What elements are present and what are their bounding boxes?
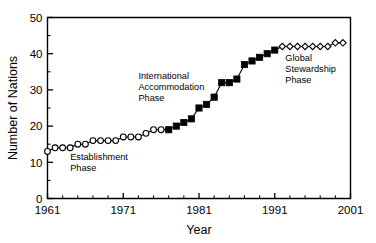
phase-annotation-line: Phase (70, 163, 96, 173)
data-point-open-circle (67, 145, 73, 151)
data-point-filled-square (196, 105, 202, 111)
data-point-open-circle (113, 138, 119, 144)
data-point-open-diamond (287, 43, 293, 49)
data-point-open-circle (143, 130, 149, 136)
data-point-open-circle (82, 141, 88, 147)
data-point-filled-square (188, 116, 194, 122)
data-point-open-circle (151, 127, 157, 133)
data-point-open-circle (120, 134, 126, 140)
data-point-open-diamond (332, 40, 338, 46)
data-point-open-diamond (294, 43, 300, 49)
data-point-open-diamond (325, 43, 331, 49)
x-tick-label: 2001 (338, 204, 364, 216)
data-point-filled-square (257, 54, 263, 60)
phase-annotation-establishment: EstablishmentPhase (70, 152, 128, 173)
y-tick-label: 20 (30, 120, 43, 132)
data-point-open-diamond (279, 43, 285, 49)
x-tick-label: 1971 (110, 204, 136, 216)
phase-annotation-line: Stewardship (285, 64, 336, 74)
phase-annotation-line: Phase (138, 93, 164, 103)
data-point-open-circle (158, 127, 164, 133)
phase-annotation-global-stewardship: GlobalStewardshipPhase (285, 53, 336, 85)
data-point-filled-square (173, 123, 179, 129)
data-point-filled-square (181, 119, 187, 125)
x-axis-title: Year (186, 223, 211, 237)
data-point-open-diamond (302, 43, 308, 49)
data-point-open-circle (60, 145, 66, 151)
y-tick-label: 30 (30, 84, 43, 96)
phase-annotation-line: Accommodation (138, 82, 204, 92)
chart-canvas: 0102030405019611971198119912001YearNumbe… (0, 0, 376, 243)
phase-annotation-line: Global (285, 53, 312, 63)
data-point-filled-square (166, 127, 172, 133)
data-point-filled-square (234, 76, 240, 82)
data-point-open-circle (75, 141, 81, 147)
data-point-open-circle (90, 138, 96, 144)
data-point-filled-square (272, 47, 278, 53)
data-point-open-circle (136, 134, 142, 140)
phase-annotation-line: Establishment (70, 152, 128, 162)
data-point-filled-square (249, 58, 255, 64)
data-point-open-circle (98, 138, 104, 144)
data-point-filled-square (264, 51, 270, 57)
data-point-filled-square (219, 80, 225, 86)
phase-annotation-line: Phase (285, 75, 311, 85)
data-point-open-circle (105, 138, 111, 144)
phase-annotation-line: International (138, 71, 189, 81)
chart-figure: 0102030405019611971198119912001YearNumbe… (0, 0, 376, 243)
x-tick-label: 1991 (262, 204, 288, 216)
data-point-open-circle (52, 145, 58, 151)
data-point-filled-square (211, 94, 217, 100)
y-tick-label: 10 (30, 157, 43, 169)
data-point-open-circle (45, 149, 51, 155)
x-tick-label: 1961 (35, 204, 61, 216)
data-point-filled-square (226, 80, 232, 86)
y-tick-label: 40 (30, 48, 43, 60)
y-axis-title: Number of Nations (6, 56, 20, 160)
data-point-open-diamond (309, 43, 315, 49)
data-point-open-diamond (317, 43, 323, 49)
data-point-filled-square (203, 101, 209, 107)
data-point-open-circle (128, 134, 134, 140)
data-point-open-diamond (340, 40, 346, 46)
x-tick-label: 1981 (186, 204, 212, 216)
series-markers-2 (279, 40, 346, 50)
data-point-filled-square (241, 61, 247, 67)
phase-annotation-international-accommodation: InternationalAccommodationPhase (138, 71, 204, 103)
y-tick-label: 50 (30, 12, 43, 24)
